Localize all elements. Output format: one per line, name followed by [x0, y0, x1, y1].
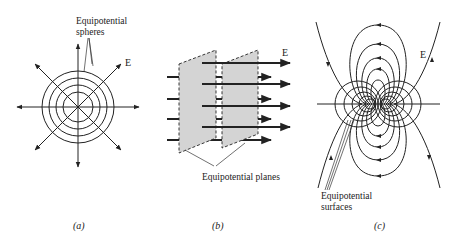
panel-c-dipole: E Equipotential surfaces (c): [316, 22, 440, 232]
caption-b: (b): [212, 220, 224, 232]
spheres-label-line1: Equipotential: [76, 16, 128, 26]
caption-c: (c): [374, 220, 386, 232]
panel-b-uniform-field: E Equipotential planes (b): [167, 47, 290, 232]
equipotential-plane-1: [179, 50, 216, 153]
planes-label: Equipotential planes: [202, 172, 280, 182]
panel-a-point-charge: Equipotential spheres E (a): [17, 16, 139, 232]
surfaces-label-line2: surfaces: [321, 202, 352, 212]
equipotential-plane-2: [222, 50, 258, 148]
equipotential-figure: Equipotential spheres E (a): [0, 0, 453, 244]
surfaces-leader-lines: [325, 120, 354, 190]
front-arrow-segments: [167, 77, 179, 140]
spheres-leader-lines: [84, 38, 93, 72]
surfaces-label-line1: Equipotential: [321, 191, 373, 201]
field-label-c: E: [420, 49, 426, 60]
caption-a: (a): [73, 220, 85, 232]
field-label-b: E: [282, 47, 288, 58]
field-label-a: E: [125, 57, 131, 68]
radial-field-lines: [17, 44, 139, 167]
spheres-label-line2: spheres: [76, 27, 105, 37]
